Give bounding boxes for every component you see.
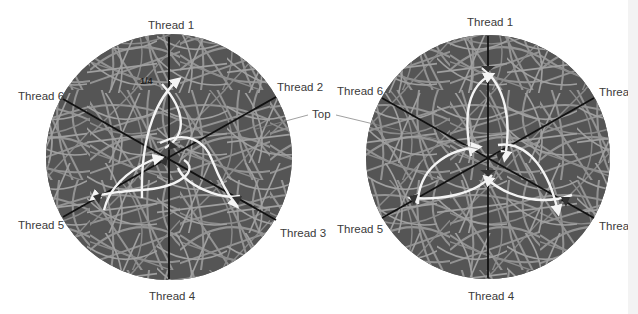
left-fraction-annotation: 1/4 [140, 76, 153, 86]
left-label-thread-1: Thread 1 [148, 20, 194, 32]
right-braid-disc [360, 30, 620, 290]
left-label-thread-3: Thread 3 [280, 228, 326, 240]
left-braid-disc [40, 30, 300, 290]
left-label-thread-2: Thread 2 [277, 82, 323, 94]
left-label-thread-5: Thread 5 [18, 220, 64, 232]
page-edge-shadow [628, 0, 638, 314]
left-label-thread-6: Thread 6 [18, 91, 64, 103]
right-label-thread-6: Thread 6 [337, 86, 383, 98]
right-label-thread-1: Thread 1 [467, 17, 513, 29]
top-callout-label: Top [312, 109, 331, 121]
right-label-thread-5: Thread 5 [337, 224, 383, 236]
braid-diagram-figure: Thread 1 Thread 2 Thread 3 Thread 4 Thre… [0, 0, 638, 314]
left-label-thread-4: Thread 4 [149, 291, 195, 303]
right-label-thread-4: Thread 4 [468, 291, 514, 303]
